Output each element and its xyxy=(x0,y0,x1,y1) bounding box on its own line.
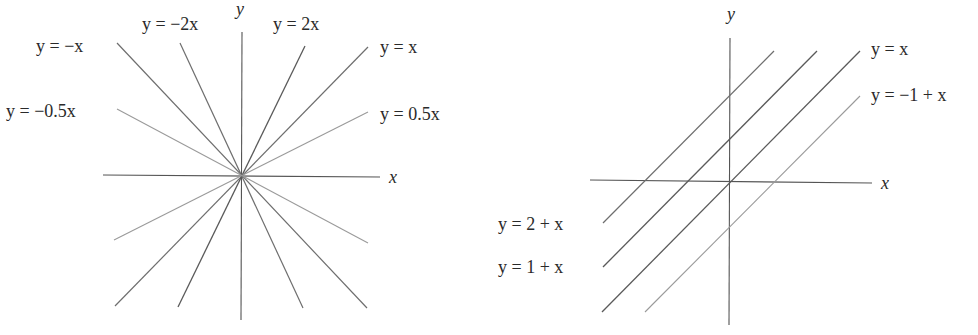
y-axis-label: y xyxy=(725,4,735,24)
x-axis-label: x xyxy=(880,173,889,193)
label-y-x: y = x xyxy=(871,39,908,59)
label-y-2x: y = 2x xyxy=(273,14,319,34)
line-y-neg-0-5x xyxy=(117,109,368,243)
label-y-neg-1-plus-x: y = −1 + x xyxy=(871,85,946,105)
label-y-neg-2x: y = −2x xyxy=(142,14,198,34)
label-y-2-plus-x: y = 2 + x xyxy=(498,214,563,234)
label-y-x: y = x xyxy=(380,37,417,57)
y-axis xyxy=(729,38,730,325)
left-figure: x y y = −x y = −2x y = 2x y = x y = −0.5… xyxy=(6,0,440,320)
label-y-neg-0-5x: y = −0.5x xyxy=(6,101,76,121)
x-axis-label: x xyxy=(388,167,397,187)
line-y-2-plus-x xyxy=(603,51,774,223)
y-axis-label: y xyxy=(234,0,244,19)
label-y-neg-x: y = −x xyxy=(36,36,83,56)
line-y-x xyxy=(602,51,860,312)
label-y-0-5x: y = 0.5x xyxy=(380,104,440,124)
diagram-canvas: x y y = −x y = −2x y = 2x y = x y = −0.5… xyxy=(0,0,978,335)
line-y-neg-1-plus-x xyxy=(645,96,860,312)
line-y-1-plus-x xyxy=(603,51,817,267)
right-figure: x y y = x y = −1 + x y = 2 + x y = 1 + x xyxy=(498,4,946,325)
label-y-1-plus-x: y = 1 + x xyxy=(498,257,563,277)
